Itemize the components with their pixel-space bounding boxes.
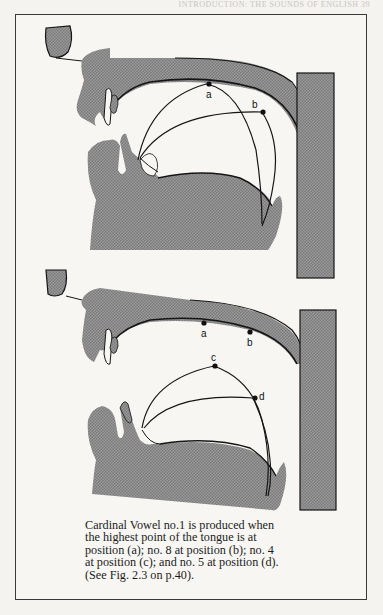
nose-shape [46, 26, 72, 57]
point-label-b: b [252, 99, 258, 110]
pharynx-wall [297, 73, 334, 278]
point-label-a: a [206, 89, 212, 100]
point-label-b: b [247, 337, 253, 348]
point-d [252, 395, 257, 400]
top-diagram: a b [46, 26, 335, 278]
point-b [260, 109, 265, 114]
figure-caption: Cardinal Vowel no.1 is produced when the… [85, 519, 315, 581]
lower-jaw [88, 402, 287, 511]
point-a [201, 320, 206, 325]
point-a [206, 81, 211, 86]
point-b [247, 329, 252, 334]
bottom-diagram: a b c d [46, 270, 336, 510]
lower-jaw [88, 134, 283, 250]
point-c [212, 363, 217, 368]
nose-shape [46, 270, 67, 296]
point-label-c: c [211, 352, 216, 363]
point-label-d: d [259, 391, 265, 402]
caption-line: the highest point of the tongue is at [85, 531, 315, 543]
caption-line: at position (c); and no. 5 at position (… [85, 556, 315, 568]
point-label-a: a [201, 328, 207, 339]
pharynx-wall [300, 310, 336, 510]
caption-line: (See Fig. 2.3 on p.40). [85, 569, 315, 581]
